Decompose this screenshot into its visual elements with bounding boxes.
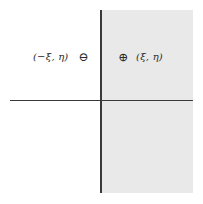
point-label-left: (−ξ, η) ⊖ bbox=[33, 51, 89, 63]
point-label-right: ⊕ (ξ, η) bbox=[118, 51, 163, 63]
coordinate-label-left: (−ξ, η) bbox=[33, 51, 68, 63]
shaded-right-half-plane bbox=[101, 10, 193, 193]
circled-plus-icon: ⊕ bbox=[118, 51, 128, 63]
horizontal-axis bbox=[10, 100, 193, 102]
coordinate-label-right: (ξ, η) bbox=[136, 51, 163, 63]
vertical-axis bbox=[100, 10, 102, 193]
circled-minus-icon: ⊖ bbox=[78, 51, 88, 63]
